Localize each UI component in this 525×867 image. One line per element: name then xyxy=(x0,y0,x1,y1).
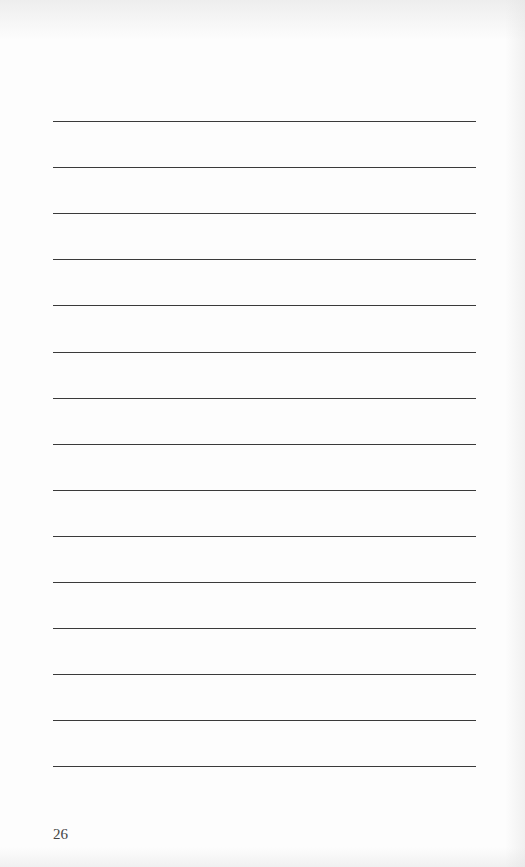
ruled-line xyxy=(53,444,476,445)
ruled-line xyxy=(53,352,476,353)
ruled-line xyxy=(53,674,476,675)
ruled-line xyxy=(53,536,476,537)
ruled-line xyxy=(53,720,476,721)
ruled-line xyxy=(53,121,476,122)
page-number: 26 xyxy=(53,826,68,843)
ruled-line xyxy=(53,305,476,306)
ruled-line xyxy=(53,628,476,629)
ruled-line xyxy=(53,398,476,399)
ruled-line xyxy=(53,167,476,168)
ruled-line xyxy=(53,582,476,583)
ruled-line xyxy=(53,259,476,260)
page-edge-shading-bottom xyxy=(0,847,525,867)
ruled-line xyxy=(53,490,476,491)
ruled-line xyxy=(53,766,476,767)
ruled-writing-lines xyxy=(53,0,476,800)
page-edge-shading-right xyxy=(505,0,525,867)
ruled-line xyxy=(53,213,476,214)
